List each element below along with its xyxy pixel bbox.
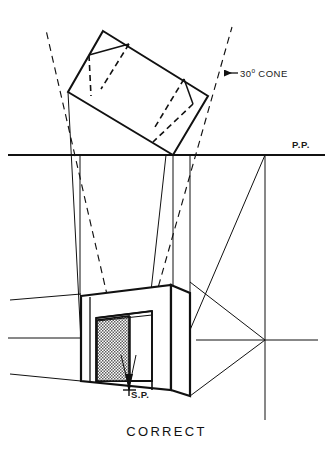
cone-of-vision-label: 30o CONE <box>240 68 288 79</box>
picture-plane-label: P.P. <box>292 140 310 150</box>
left-vp-line-bottom <box>10 374 81 381</box>
building-right-face <box>171 285 190 396</box>
vp-ray-lower <box>190 340 265 396</box>
perspective-construction-figure: P.P. 30o CONE S.P. CORRECT <box>0 0 333 468</box>
recess-stippled-wall <box>97 316 129 381</box>
left-vp-convergence-lines <box>8 294 81 381</box>
projector-near-left <box>150 155 166 300</box>
degree-symbol: o <box>252 67 256 74</box>
cone-angle-value: 30 <box>240 68 252 79</box>
station-point-label: S.P. <box>131 390 149 400</box>
cone-word: CONE <box>258 68 287 79</box>
left-vp-line-top <box>10 294 81 300</box>
plan-outline <box>68 31 208 155</box>
figure-caption: CORRECT <box>0 424 333 439</box>
vp-ray-upper <box>190 282 265 340</box>
plan-view-group <box>68 31 208 155</box>
vp-ray-diagonal <box>190 155 265 330</box>
perspective-view-group <box>8 285 190 396</box>
